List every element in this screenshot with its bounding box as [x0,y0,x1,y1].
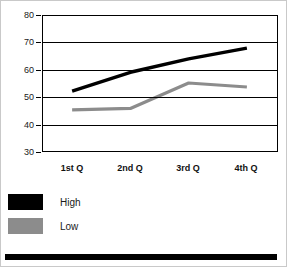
line-chart: 80 70 60 50 40 30 1st Q 2nd [0,0,288,185]
x-tick-label-4th-q: 4th Q [216,163,276,173]
y-tick-mark-40 [36,125,41,126]
y-axis: 80 70 60 50 40 30 [0,0,42,137]
y-tick-label-80: 80 [0,10,34,20]
y-tick-label-30: 30 [0,147,34,157]
y-tick-mark-30 [36,152,41,153]
y-tick-label-50: 50 [0,92,34,102]
gridline-40 [43,125,277,126]
y-tick-label-60: 60 [0,65,34,75]
y-tick-mark-70 [36,42,41,43]
gridline-70 [43,42,277,43]
y-tick-mark-80 [36,15,41,16]
x-tick-label-2nd-q: 2nd Q [100,163,160,173]
gridline-60 [43,70,277,71]
plot-area [42,15,278,152]
legend-item-low: Low [8,214,148,238]
y-tick-label-70: 70 [0,37,34,47]
y-tick-mark-50 [36,97,41,98]
legend-label-low: Low [60,221,78,232]
legend-swatch-low-icon [8,218,43,234]
gridline-50 [43,97,277,98]
legend-label-high: High [60,197,81,208]
series-lines [43,16,276,150]
footer-bar [5,254,277,260]
chart-legend: High Low [8,190,148,238]
legend-item-high: High [8,190,148,214]
chart-slide: 80 70 60 50 40 30 1st Q 2nd [0,0,288,268]
legend-swatch-high-icon [8,194,43,210]
x-tick-label-1st-q: 1st Q [42,163,102,173]
y-tick-label-40: 40 [0,120,34,130]
x-tick-label-3rd-q: 3rd Q [158,163,218,173]
y-tick-mark-60 [36,70,41,71]
